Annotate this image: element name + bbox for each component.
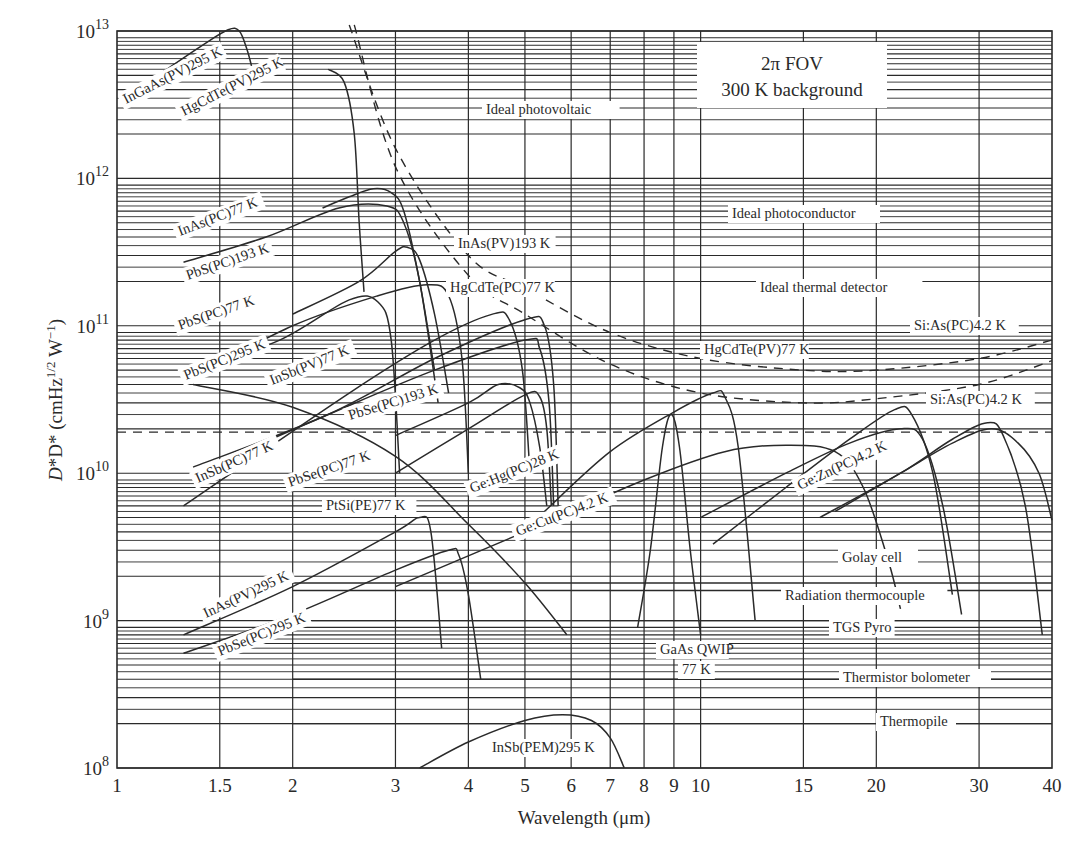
curve-label: Ideal photoconductor (728, 205, 880, 223)
series-curve (184, 549, 481, 680)
background-label: 300 K background (721, 79, 863, 100)
x-tick-label: 1 (112, 775, 122, 796)
x-tick-label: 7 (605, 775, 615, 796)
x-axis-label: Wavelength (μm) (518, 807, 651, 829)
grid-lines (117, 31, 1052, 768)
svg-text:InSb(PEM)295 K: InSb(PEM)295 K (492, 739, 595, 756)
curve-label: 77 K (678, 661, 715, 679)
data-series (117, 25, 1052, 768)
y-tick-label: 1012 (76, 164, 109, 189)
curve-label: InAs(PV)295 K (197, 565, 297, 624)
curve-label: PbSe(PC)77 K (282, 445, 377, 493)
curve-label: HgCdTe(PC)77 K (446, 279, 555, 297)
svg-text:Radiation thermocouple: Radiation thermocouple (785, 587, 925, 603)
curve-label: Si:As(PC)4.2 K (910, 317, 1019, 335)
x-tick-label: 5 (520, 775, 530, 796)
y-tick-label: 1010 (76, 459, 109, 484)
x-tick-label: 15 (794, 775, 813, 796)
series-curve (184, 516, 442, 648)
plot-frame (117, 31, 1052, 768)
curve-label: Radiation thermocouple (781, 587, 947, 605)
svg-text:Golay cell: Golay cell (842, 549, 902, 565)
svg-text:PtSi(PE)77 K: PtSi(PE)77 K (326, 497, 406, 514)
svg-text:Thermistor bolometer: Thermistor bolometer (843, 669, 970, 685)
svg-text:PbSe(PC)77 K: PbSe(PC)77 K (286, 447, 373, 491)
svg-text:TGS Pyro: TGS Pyro (833, 619, 891, 635)
curve-label: Ge:Cu(PC)4.2 K (510, 486, 618, 542)
curve-label: InSb(PV)77 K (263, 339, 357, 391)
curve-label: InAs(PV)193 K (454, 235, 556, 253)
svg-text:77 K: 77 K (682, 661, 711, 677)
curve-label: InSb(PEM)295 K (488, 739, 597, 757)
curve-label: PbS(PC)295 K (177, 334, 271, 386)
x-tick-label: 2 (288, 775, 298, 796)
svg-text:Thermopile: Thermopile (880, 713, 948, 729)
curve-label: TGS Pyro (829, 619, 895, 637)
annotation-box: 2π FOV 300 K background (697, 42, 887, 108)
x-tick-label: 1.5 (208, 775, 232, 796)
x-tick-label: 10 (691, 775, 710, 796)
svg-text:Ideal photoconductor: Ideal photoconductor (732, 205, 856, 221)
svg-text:PbSe(PC)295 K: PbSe(PC)295 K (215, 609, 308, 660)
x-tick-label: 6 (566, 775, 576, 796)
detectivity-chart: InGaAs(PV)295 KHgCdTe(PV)295 KInAs(PC)77… (0, 0, 1089, 861)
curve-label: PbS(PC)77 K (172, 291, 260, 336)
svg-text:PbS(PC)295 K: PbS(PC)295 K (181, 335, 268, 383)
series-curve (328, 69, 364, 292)
svg-text:Ideal thermal detector: Ideal thermal detector (760, 279, 887, 295)
x-tick-label: 8 (639, 775, 649, 796)
curve-label: Ideal thermal detector (756, 279, 922, 297)
curve-label: Si:As(PC)4.2 K (926, 391, 1035, 409)
curve-label: Golay cell (838, 549, 918, 567)
y-tick-label: 1013 (76, 17, 109, 42)
svg-text:Si:As(PC)4.2 K: Si:As(PC)4.2 K (914, 317, 1006, 334)
x-tick-label: 30 (970, 775, 989, 796)
y-tick-label: 109 (83, 607, 109, 632)
y-tick-label: 108 (83, 754, 109, 779)
y-axis-ticks: 1081091010101110121013 (76, 17, 109, 779)
x-tick-label: 9 (669, 775, 679, 796)
curve-label: GaAs QWIP (656, 641, 734, 659)
curve-labels: InGaAs(PV)295 KHgCdTe(PV)295 KInAs(PC)77… (117, 42, 1035, 757)
svg-text:InAs(PV)193 K: InAs(PV)193 K (458, 235, 551, 252)
y-axis-label: D*D* (cmHz1/2 W−1) (43, 319, 67, 482)
x-tick-label: 3 (391, 775, 401, 796)
curve-label: PtSi(PE)77 K (322, 497, 416, 515)
y-tick-label: 1011 (77, 312, 109, 337)
curve-label: Ideal photovoltaic (482, 101, 620, 119)
curve-label: Thermistor bolometer (839, 669, 991, 687)
x-tick-label: 20 (867, 775, 886, 796)
curve-label: HgCdTe(PV)77 K (700, 341, 810, 359)
fov-label: 2π FOV (761, 53, 823, 74)
x-axis-ticks: 11.5234567891015203040 (112, 775, 1061, 796)
svg-text:Ge:Hg(PC)28 K: Ge:Hg(PC)28 K (467, 445, 562, 496)
svg-text:Ideal photovoltaic: Ideal photovoltaic (486, 101, 591, 117)
curve-label: Thermopile (876, 713, 956, 731)
curve-label: InSb(PC)77 K (189, 434, 283, 489)
x-tick-label: 40 (1043, 775, 1062, 796)
svg-text:HgCdTe(PV)77 K: HgCdTe(PV)77 K (704, 341, 810, 358)
svg-text:GaAs QWIP: GaAs QWIP (660, 641, 734, 657)
svg-text:HgCdTe(PC)77 K: HgCdTe(PC)77 K (450, 279, 555, 296)
x-tick-label: 4 (464, 775, 474, 796)
svg-text:Si:As(PC)4.2 K: Si:As(PC)4.2 K (930, 391, 1022, 408)
